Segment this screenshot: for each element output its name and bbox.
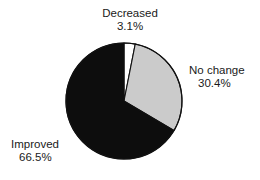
slice-label-improved-name: Improved [11,138,59,151]
slice-label-decreased: Decreased 3.1% [0,7,260,33]
slice-label-improved: Improved 66.5% [11,138,59,164]
slice-label-decreased-percent: 3.1% [0,20,260,33]
slice-label-improved-percent: 66.5% [11,151,59,164]
slice-label-decreased-name: Decreased [0,7,260,20]
slice-label-no-change-name: No change [189,64,245,77]
slice-label-no-change-percent: 30.4% [189,77,245,90]
pie-chart-figure: Decreased 3.1% No change 30.4% Improved … [0,0,260,180]
slice-label-no-change: No change 30.4% [189,64,245,90]
